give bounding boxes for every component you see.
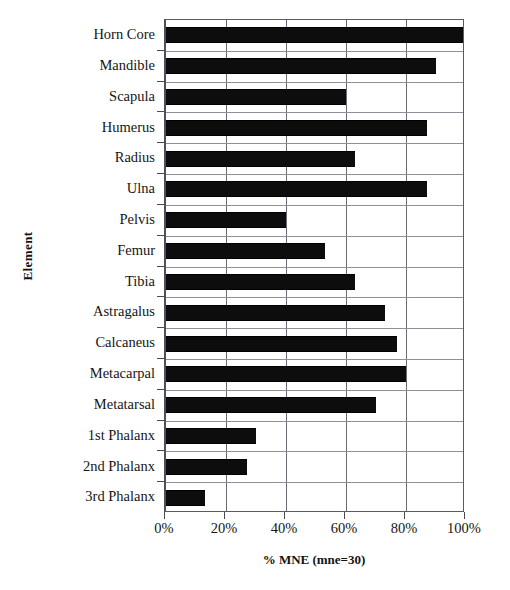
category-label: Ulna <box>40 173 160 204</box>
y-axis-tick <box>157 173 164 174</box>
bar-row <box>166 390 463 421</box>
bar <box>166 428 256 444</box>
x-axis-tick <box>164 512 165 519</box>
category-label: 3rd Phalanx <box>40 481 160 512</box>
y-axis-tick <box>157 389 164 390</box>
bar <box>166 212 286 228</box>
y-axis-tick <box>157 81 164 82</box>
bar-row <box>166 205 463 236</box>
category-label: 2nd Phalanx <box>40 450 160 481</box>
x-axis-ticks <box>164 512 464 519</box>
bar <box>166 305 385 321</box>
y-axis-tick <box>157 327 164 328</box>
bar <box>166 243 325 259</box>
y-axis-tick <box>157 450 164 451</box>
bar <box>166 366 406 382</box>
category-label: Tibia <box>40 266 160 297</box>
bar-series <box>166 20 463 511</box>
y-axis-tick <box>157 142 164 143</box>
y-axis-tick <box>157 420 164 421</box>
y-axis-tick <box>157 50 164 51</box>
bar <box>166 89 346 105</box>
y-axis-tick <box>157 358 164 359</box>
bar <box>166 336 397 352</box>
y-axis-category-labels: Horn CoreMandibleScapulaHumerusRadiusUln… <box>40 19 160 512</box>
bar <box>166 58 436 74</box>
plot-area <box>164 19 464 512</box>
bar-row <box>166 236 463 267</box>
bar-row <box>166 482 463 513</box>
x-axis-tick-labels: 0%20%40%60%80%100% <box>164 520 464 540</box>
y-axis-title-text: Element <box>20 231 36 280</box>
bar-chart-figure: Element Horn CoreMandibleScapulaHumerusR… <box>0 0 510 590</box>
bar-row <box>166 143 463 174</box>
y-axis-tick <box>157 111 164 112</box>
bar-row <box>166 267 463 298</box>
bar-row <box>166 297 463 328</box>
bar <box>166 490 205 506</box>
y-axis-tick <box>157 266 164 267</box>
category-label: Femur <box>40 235 160 266</box>
x-axis-tick <box>344 512 345 519</box>
x-axis-tick-label: 0% <box>154 520 173 537</box>
category-label: Calcaneus <box>40 327 160 358</box>
bar <box>166 120 427 136</box>
x-axis-tick-label: 60% <box>331 520 358 537</box>
y-axis-ticks <box>157 19 164 512</box>
y-axis-tick <box>157 235 164 236</box>
bar-row <box>166 112 463 143</box>
x-axis-tick <box>464 512 465 519</box>
x-axis-title: % MNE (mne=30) <box>164 552 464 568</box>
bar <box>166 459 247 475</box>
category-label: 1st Phalanx <box>40 420 160 451</box>
category-label: Radius <box>40 142 160 173</box>
bar <box>166 274 355 290</box>
y-axis-tick <box>157 481 164 482</box>
category-label: Humerus <box>40 111 160 142</box>
bar-row <box>166 328 463 359</box>
category-label: Metatarsal <box>40 389 160 420</box>
x-axis-tick-label: 20% <box>211 520 238 537</box>
y-axis-tick <box>157 296 164 297</box>
bar-row <box>166 359 463 390</box>
bar-row <box>166 82 463 113</box>
bar-row <box>166 451 463 482</box>
bar <box>166 27 463 43</box>
bar <box>166 397 376 413</box>
bar-row <box>166 421 463 452</box>
category-label: Pelvis <box>40 204 160 235</box>
x-axis-tick-label: 40% <box>271 520 298 537</box>
bar-row <box>166 51 463 82</box>
x-axis-tick <box>404 512 405 519</box>
category-label: Scapula <box>40 81 160 112</box>
bar-row <box>166 174 463 205</box>
bar <box>166 181 427 197</box>
category-label: Horn Core <box>40 19 160 50</box>
x-axis-tick-label: 80% <box>391 520 418 537</box>
bar-row <box>166 20 463 51</box>
category-label: Mandible <box>40 50 160 81</box>
x-axis-tick-label: 100% <box>447 520 481 537</box>
category-label: Astragalus <box>40 296 160 327</box>
category-label: Metacarpal <box>40 358 160 389</box>
bar <box>166 151 355 167</box>
y-axis-tick <box>157 204 164 205</box>
x-axis-tick <box>224 512 225 519</box>
x-axis-tick <box>284 512 285 519</box>
